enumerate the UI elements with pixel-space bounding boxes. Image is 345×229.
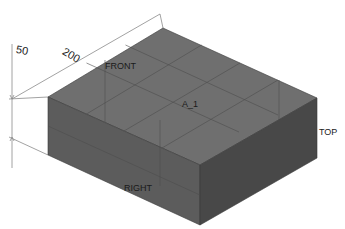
cad-viewport[interactable]: 50 200 FRONT A_1 TOP RIGHT [0, 0, 345, 229]
block-A_1[interactable] [48, 28, 317, 225]
extension-line-bottom [9, 137, 48, 155]
height-dimension-value[interactable]: 50 [15, 44, 29, 57]
model-canvas[interactable] [0, 0, 345, 229]
datum-label-right[interactable]: RIGHT [124, 184, 152, 193]
datum-label-front[interactable]: FRONT [105, 62, 136, 71]
datum-label-top[interactable]: TOP [319, 128, 337, 137]
extension-line-back [160, 14, 163, 28]
model-label[interactable]: A_1 [182, 100, 198, 109]
